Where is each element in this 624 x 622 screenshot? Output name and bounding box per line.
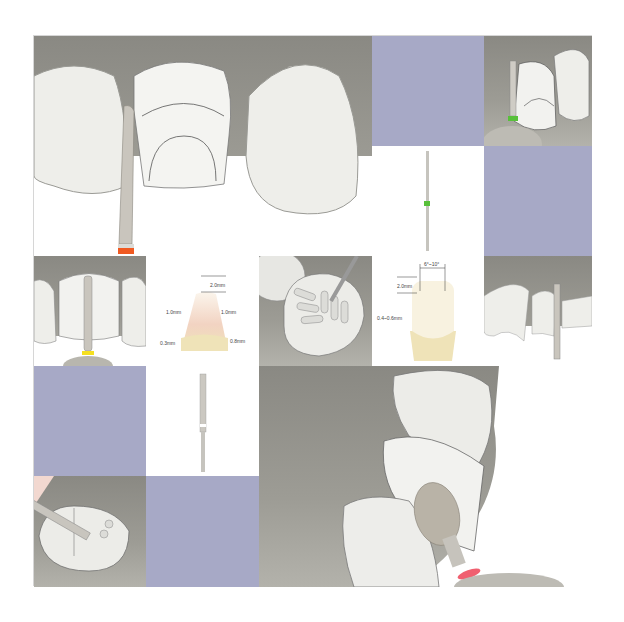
illustration-mosaic: 2.0mm 1.0mm 1.0mm 0.3mm 0.8mm (33, 35, 592, 586)
lavender-block (146, 476, 259, 587)
bur-band-green (508, 116, 518, 121)
label-left-1mm: 1.0mm (166, 309, 181, 315)
lavender-block (372, 36, 484, 146)
lateral-reduction-diagram: 6°~10° 2.0mm 0.4~0.6mm (372, 256, 484, 366)
bur-white-band-image (146, 366, 259, 476)
bur-band-yellow (82, 351, 94, 355)
label-angle: 6°~10° (424, 261, 439, 267)
bur-band-orange (118, 248, 134, 254)
posterior-occlusal-illustration (259, 256, 372, 366)
label-right-0.8mm: 0.8mm (230, 338, 245, 344)
label-incisal-2mm: 2.0mm (397, 283, 412, 289)
anterior-veneer-prep-illustration (34, 36, 372, 256)
anterior-teeth-image (34, 36, 372, 256)
lavender-block (484, 146, 592, 256)
molar-occlusal-prep-illustration (34, 476, 146, 587)
cervical-prep-illustration (484, 256, 592, 366)
bur-green-band-image (372, 146, 484, 256)
lavender-block (34, 366, 146, 476)
lingual-contour-prep-illustration (259, 366, 592, 587)
label-left-0.3mm: 0.3mm (160, 340, 175, 346)
facial-reduction-diagram: 2.0mm 1.0mm 1.0mm 0.3mm 0.8mm (146, 256, 259, 366)
lingual-prep-illustration (484, 36, 592, 146)
incisal-reduction-illustration (34, 256, 146, 366)
label-right-1mm: 1.0mm (221, 309, 236, 315)
label-depth: 0.4~0.6mm (377, 315, 402, 321)
label-incisal-2mm: 2.0mm (210, 282, 225, 288)
